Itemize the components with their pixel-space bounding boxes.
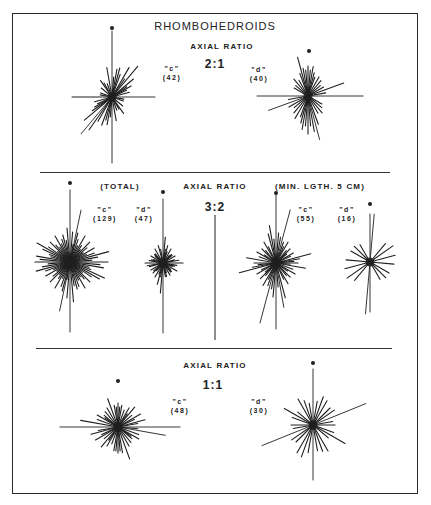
rose-3-2-total-d bbox=[145, 190, 183, 333]
north-marker-dot bbox=[274, 191, 278, 195]
rose-2-1-c bbox=[72, 26, 155, 163]
rose-diagram-figure: RHOMBOHEDROIDS AXIAL RATIO 2:1 "c" (42) … bbox=[0, 0, 431, 505]
rose-diagrams-layer bbox=[0, 0, 431, 505]
rose-3-2-total-c bbox=[35, 181, 109, 332]
rose-1-1-d bbox=[262, 361, 366, 480]
north-marker-dot bbox=[368, 202, 372, 206]
rose-2-1-d bbox=[257, 49, 363, 140]
rose-3-2-min-c bbox=[239, 191, 310, 329]
north-marker-dot bbox=[311, 361, 315, 365]
rose-3-2-min-d bbox=[345, 202, 395, 314]
north-marker-dot bbox=[110, 26, 114, 30]
north-marker-dot bbox=[68, 181, 72, 185]
north-marker-dot bbox=[161, 190, 165, 194]
north-marker-dot bbox=[116, 379, 120, 383]
north-marker-dot bbox=[307, 49, 311, 53]
rose-1-1-c bbox=[60, 379, 180, 459]
